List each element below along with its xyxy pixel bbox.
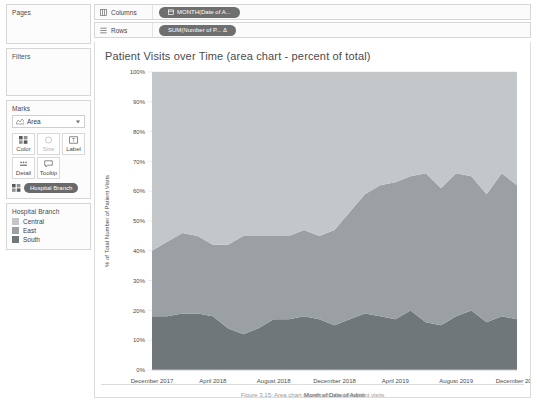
rows-pill-sum-number-of-patients[interactable]: SUM(Number of P... Δ xyxy=(159,25,236,36)
rows-list-icon xyxy=(100,27,107,34)
marks-encoding-row: Hospital Branch xyxy=(7,179,90,193)
label-button[interactable]: T Label xyxy=(62,133,85,155)
svg-text:100%: 100% xyxy=(130,69,146,75)
area-chart-svg[interactable]: 0%10%20%30%40%50%60%70%80%90%100%% of To… xyxy=(95,66,530,398)
rows-shelf-label: Rows xyxy=(111,27,127,34)
color-palette-icon xyxy=(12,184,21,192)
legend-item-central[interactable]: Central xyxy=(7,217,90,226)
marks-card: Marks Area Color xyxy=(6,100,91,199)
size-button[interactable]: Size xyxy=(37,133,60,155)
tooltip-button-label: Tooltip xyxy=(40,170,57,176)
svg-text:70%: 70% xyxy=(133,159,146,165)
size-circle-icon xyxy=(44,136,53,144)
viz-panel: Columns MONTH(Date of A... Rows xyxy=(94,4,531,398)
svg-text:30%: 30% xyxy=(133,278,146,284)
mark-type-value: Area xyxy=(27,118,41,125)
pages-card-title: Pages xyxy=(7,5,90,18)
legend-label-south: South xyxy=(23,236,40,243)
svg-text:10%: 10% xyxy=(133,337,146,343)
rows-shelf-body[interactable]: SUM(Number of P... Δ xyxy=(153,23,530,37)
legend-label-east: East xyxy=(23,227,36,234)
tableau-worksheet: Pages Filters Marks Area xyxy=(6,4,531,398)
columns-pill-text: MONTH(Date of A... xyxy=(177,9,231,15)
svg-text:T: T xyxy=(72,137,75,143)
size-button-label: Size xyxy=(43,146,55,152)
legend-swatch-south xyxy=(12,236,19,243)
legend-title: Hospital Branch xyxy=(7,204,90,217)
figure-caption: Figure 3.15: Area chart of percent of to… xyxy=(95,392,530,398)
svg-text:80%: 80% xyxy=(133,129,146,135)
svg-text:0%: 0% xyxy=(136,367,145,373)
columns-shelf-label-wrap: Columns xyxy=(95,5,153,19)
svg-text:60%: 60% xyxy=(133,188,146,194)
svg-text:20%: 20% xyxy=(133,308,146,314)
pages-card[interactable]: Pages xyxy=(6,4,91,44)
svg-text:50%: 50% xyxy=(133,218,146,224)
legend-item-east[interactable]: East xyxy=(7,226,90,235)
detail-button[interactable]: Detail xyxy=(12,157,35,179)
mark-buttons-row-2: Detail Tooltip xyxy=(7,157,90,179)
label-button-label: Label xyxy=(66,146,81,152)
mark-type-dropdown[interactable]: Area xyxy=(12,115,85,128)
chart-plot-area[interactable]: 0%10%20%30%40%50%60%70%80%90%100%% of To… xyxy=(95,66,530,397)
detail-button-label: Detail xyxy=(16,170,31,176)
rows-shelf[interactable]: Rows SUM(Number of P... Δ xyxy=(94,22,531,38)
legend-item-south[interactable]: South xyxy=(7,235,90,244)
mark-buttons-row-1: Color Size T Label xyxy=(7,133,90,155)
columns-pill-month-date-of-admit[interactable]: MONTH(Date of A... xyxy=(159,7,240,18)
chevron-down-icon[interactable] xyxy=(76,120,80,123)
columns-shelf[interactable]: Columns MONTH(Date of A... xyxy=(94,4,531,20)
filters-card[interactable]: Filters xyxy=(6,48,91,96)
detail-dots-icon xyxy=(19,160,28,168)
color-legend-card: Hospital Branch Central East South xyxy=(6,203,91,250)
columns-shelf-label: Columns xyxy=(111,9,137,16)
tooltip-button[interactable]: Tooltip xyxy=(37,157,60,179)
marks-color-pill[interactable]: Hospital Branch xyxy=(24,183,78,193)
legend-label-central: Central xyxy=(23,218,44,225)
rows-pill-text: SUM(Number of P... Δ xyxy=(168,27,227,33)
caption-divider xyxy=(101,384,524,385)
label-text-icon: T xyxy=(69,136,78,144)
filters-card-title: Filters xyxy=(7,49,90,62)
columns-shelf-body[interactable]: MONTH(Date of A... xyxy=(153,5,530,19)
y-axis-title: % of Total Number of Patient Visits xyxy=(104,175,110,267)
tooltip-bubble-icon xyxy=(44,160,53,168)
rows-shelf-label-wrap: Rows xyxy=(95,23,153,37)
columns-grid-icon xyxy=(100,9,107,16)
calendar-icon xyxy=(168,9,174,15)
color-button-label: Color xyxy=(16,146,30,152)
visualization-pane: Patient Visits over Time (area chart - p… xyxy=(94,42,531,398)
color-palette-icon xyxy=(19,136,28,144)
legend-swatch-east xyxy=(12,227,19,234)
page-title: Patient Visits over Time (area chart - p… xyxy=(95,42,530,62)
area-mark-icon xyxy=(16,118,24,125)
shelves-panel: Pages Filters Marks Area xyxy=(6,4,94,398)
legend-swatch-central xyxy=(12,218,19,225)
color-button[interactable]: Color xyxy=(12,133,35,155)
svg-text:90%: 90% xyxy=(133,99,146,105)
svg-text:40%: 40% xyxy=(133,248,146,254)
marks-card-title: Marks xyxy=(7,101,90,114)
